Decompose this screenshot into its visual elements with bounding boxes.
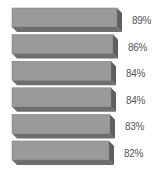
value-label: 86%	[128, 42, 147, 53]
bar	[12, 35, 118, 59]
value-label: 84%	[126, 95, 145, 106]
bar	[12, 114, 115, 138]
bar	[12, 8, 122, 32]
value-label: 84%	[126, 68, 145, 79]
value-label: 83%	[125, 121, 144, 132]
bar	[12, 61, 116, 85]
bar	[12, 88, 116, 112]
value-label: 89%	[132, 15, 151, 26]
value-label: 82%	[124, 148, 143, 159]
bar	[12, 141, 114, 165]
